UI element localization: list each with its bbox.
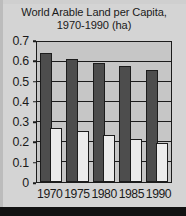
plot-area [36, 41, 172, 183]
x-axis-label: 1985 [119, 187, 144, 201]
x-axis-label: 1970 [37, 187, 62, 201]
bar-group [144, 42, 169, 182]
chart-figure: World Arable Land per Capita, 1970-1990 … [0, 0, 186, 216]
bar-light [103, 135, 115, 182]
chart-title-line-2: 1970-1990 (ha) [8, 19, 180, 32]
bar-group [118, 42, 143, 182]
bar-light [130, 139, 142, 182]
bar-groups [37, 42, 171, 182]
y-axis-label: 0.4 [12, 95, 29, 109]
y-axis-label: 0.5 [12, 75, 29, 89]
y-axis-label: 0.2 [12, 135, 29, 149]
bar-group [91, 42, 116, 182]
bar-group [65, 42, 90, 182]
chart-title: World Arable Land per Capita, 1970-1990 … [8, 6, 180, 32]
figure-top-edge [0, 0, 186, 4]
bar-light [156, 143, 168, 182]
y-axis-label: 0.1 [12, 156, 29, 170]
y-axis-label: 0 [22, 176, 29, 190]
chart-title-line-1: World Arable Land per Capita, [8, 6, 180, 19]
bar-light [77, 131, 89, 182]
y-axis-label: 0.7 [12, 34, 29, 48]
bar-group [39, 42, 64, 182]
x-axis-label: 1990 [146, 187, 171, 201]
x-axis-label: 1975 [64, 187, 89, 201]
x-axis: 19701975198019851990 [36, 187, 172, 201]
y-axis-label: 0.3 [12, 115, 29, 129]
y-axis-label: 0.6 [12, 54, 29, 68]
footer-bar [0, 207, 186, 216]
x-axis-label: 1980 [91, 187, 116, 201]
bar-light [50, 128, 62, 182]
y-axis: 0.70.60.50.40.30.20.10 [0, 41, 33, 183]
